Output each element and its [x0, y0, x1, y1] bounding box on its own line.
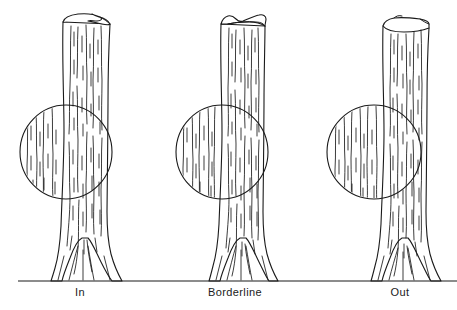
- panel-label-out: Out: [391, 286, 410, 298]
- angle-gauge-figure: In Borderline Out: [0, 0, 457, 310]
- bark-texture-in-gauge: [27, 106, 56, 200]
- bark-texture-out-gauge: [335, 106, 377, 206]
- figure-canvas: In Borderline Out: [0, 0, 457, 310]
- panel-borderline: [176, 15, 278, 281]
- panel-out: [327, 16, 441, 281]
- panel-label-in: In: [75, 286, 85, 298]
- panel-in: [20, 14, 122, 281]
- panel-label-borderline: Borderline: [208, 286, 262, 298]
- trunk-cut-top-out: [383, 18, 429, 32]
- trunk-outline-out: [371, 26, 441, 281]
